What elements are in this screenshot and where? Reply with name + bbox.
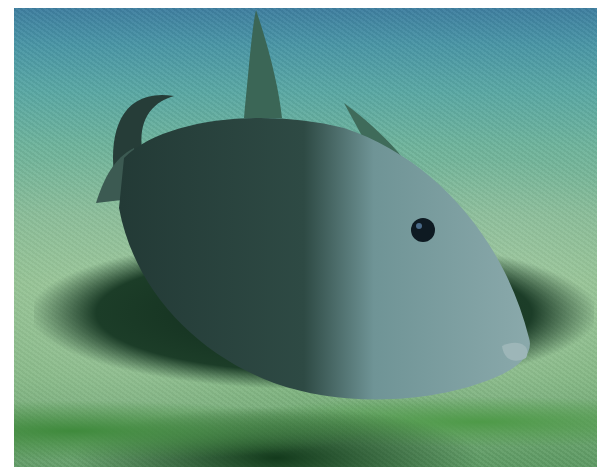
dorsal-fin bbox=[244, 10, 282, 118]
fish-eye bbox=[411, 218, 435, 242]
fish-body bbox=[119, 118, 530, 399]
underwater-photo bbox=[14, 8, 597, 467]
triggerfish bbox=[14, 8, 597, 467]
